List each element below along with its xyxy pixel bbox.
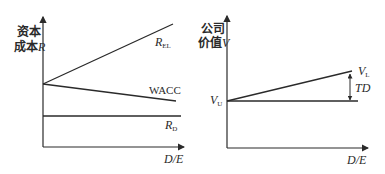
v-l-label: VL	[358, 64, 370, 79]
v-l-line	[227, 71, 352, 101]
left-y-axis-label-line2: 成本R	[14, 39, 46, 54]
left-x-axis-label: D/E	[163, 152, 184, 166]
r-d-label: RD	[164, 118, 177, 133]
right-panel-firm-value: 公司 价值V VL TD VU D/E	[198, 16, 371, 167]
r-el-line	[43, 24, 173, 84]
right-x-axis-label: D/E	[346, 153, 367, 167]
right-y-axis-label-line1: 公司	[201, 22, 225, 36]
mm-theorem-diagram: 资本 成本R REL WACC RD D/E 公司 价值V VL TD VU D…	[0, 0, 385, 174]
left-y-axis-label-line1: 资本	[17, 24, 41, 39]
r-el-label: REL	[154, 35, 171, 50]
wacc-label: WACC	[149, 84, 181, 96]
right-y-axis-label-line2: 价值V	[198, 35, 231, 50]
v-u-label: VU	[210, 93, 222, 108]
td-label: TD	[355, 81, 371, 95]
left-panel-cost-of-capital: 资本 成本R REL WACC RD D/E	[14, 17, 184, 166]
